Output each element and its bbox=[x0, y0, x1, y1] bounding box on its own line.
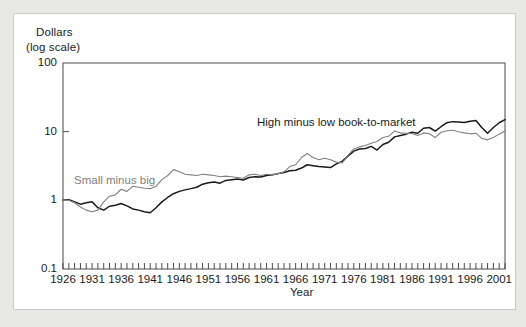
x-tick-label: 2001 bbox=[479, 273, 519, 285]
y-tick-label: 1 bbox=[23, 193, 57, 205]
figure-card: Dollars (log scale) Year 1001010.1 19261… bbox=[13, 13, 516, 310]
y-axis-title-line2: (log scale) bbox=[26, 41, 80, 53]
y-tick-label: 10 bbox=[23, 125, 57, 137]
data-series-group bbox=[63, 120, 505, 213]
chart-svg bbox=[14, 14, 517, 311]
series-label-small-minus-big: Small minus big bbox=[74, 174, 155, 186]
y-axis-title-line1: Dollars bbox=[36, 26, 73, 38]
y-tick-label: 100 bbox=[23, 56, 57, 68]
series-label-high-minus-low: High minus low book-to-market bbox=[257, 116, 416, 128]
x-axis-title: Year bbox=[290, 286, 313, 298]
y-axis-ticks bbox=[63, 132, 69, 201]
chart-plot-area: Dollars (log scale) Year 1001010.1 19261… bbox=[14, 14, 517, 311]
plot-frame bbox=[63, 63, 505, 269]
x-axis-ticks bbox=[63, 263, 505, 269]
